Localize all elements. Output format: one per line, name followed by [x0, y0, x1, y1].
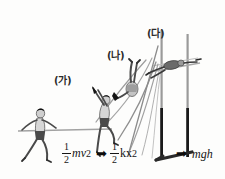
fraction-denominator: 2 [62, 154, 71, 165]
vault-standards-group [156, 30, 192, 160]
formula-gravitational-energy: mgh [192, 147, 213, 162]
runner-front-foot [47, 160, 51, 162]
pole-vault-diagram: (가) (나) (다) 1 2 mv2 ➡ 1 2 kx2 ➡ mgh [0, 0, 225, 179]
energy-transfer-arrow-2: ➡ [176, 147, 187, 160]
elastic-exponent: 2 [132, 148, 137, 159]
clearing-head [178, 60, 184, 66]
inverted-foot-right [137, 60, 140, 63]
inverted-shorts [127, 84, 138, 92]
fraction-denominator: 2 [110, 154, 119, 165]
fraction-numerator: 1 [110, 142, 119, 154]
fraction-one-half-kinetic: 1 2 [62, 142, 71, 165]
clearing-arm [184, 62, 197, 63]
left-standard-lower [160, 108, 163, 157]
inverted-leg-left [130, 62, 132, 82]
runner-back-leg [25, 139, 37, 158]
kinetic-mass-symbol: m [72, 146, 81, 161]
inverted-foot-left [129, 59, 132, 62]
clearing-hand [196, 59, 201, 60]
clearing-foot [146, 73, 149, 75]
stage-label-na: (나) [107, 47, 124, 62]
energy-transfer-arrow-1: ➡ [96, 147, 107, 160]
fraction-numerator: 1 [62, 142, 71, 154]
formula-kinetic-energy: 1 2 mv2 [62, 142, 91, 165]
athlete-inverted-figure [112, 59, 140, 101]
runner-front-leg [42, 139, 47, 160]
right-standard-upper [187, 34, 189, 108]
takeoff-torso [100, 104, 110, 119]
stage-label-ga: (가) [54, 72, 71, 87]
carried-pole [18, 129, 112, 131]
stage-label-da: (다) [147, 25, 164, 40]
kinetic-exponent: 2 [86, 148, 91, 159]
runner-back-arm [22, 120, 37, 130]
fraction-one-half-elastic: 1 2 [110, 142, 119, 165]
inverted-arm [118, 92, 128, 98]
formula-elastic-energy: 1 2 kx2 [110, 142, 137, 165]
runner-back-foot [22, 158, 25, 161]
